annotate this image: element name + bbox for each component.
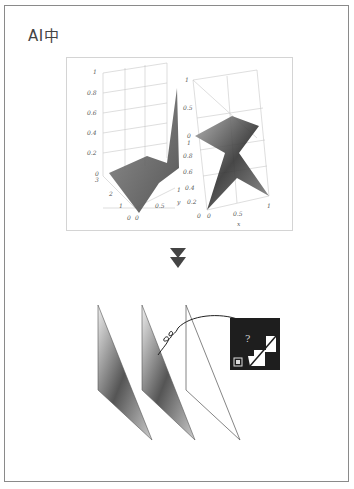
svg-text:0.8: 0.8 xyxy=(87,89,97,96)
svg-text:y: y xyxy=(176,198,181,206)
svg-text:1: 1 xyxy=(185,76,189,83)
texture-map-inset: ? xyxy=(230,318,280,370)
svg-text:0.6: 0.6 xyxy=(87,109,97,116)
plot-panel: 1 0.8 0.6 0.4 0.2 0 3 2 1 0 0 0.5 1 1 0.… xyxy=(66,57,293,231)
svg-text:0.4: 0.4 xyxy=(87,129,97,136)
svg-text:0.8: 0.8 xyxy=(183,152,193,159)
svg-text:0: 0 xyxy=(135,214,139,221)
svg-text:0.5: 0.5 xyxy=(233,210,243,217)
svg-text:0.6: 0.6 xyxy=(183,168,193,175)
svg-text:1: 1 xyxy=(187,139,191,146)
svg-text:2: 2 xyxy=(108,190,113,197)
textured-triangle-2 xyxy=(142,305,195,440)
svg-text:0: 0 xyxy=(197,212,201,219)
svg-text:0: 0 xyxy=(207,212,211,219)
svg-text:0: 0 xyxy=(187,132,191,139)
svg-text:?: ? xyxy=(245,333,250,344)
svg-text:1: 1 xyxy=(93,68,97,75)
svg-text:0.4: 0.4 xyxy=(185,184,195,191)
svg-text:0.2: 0.2 xyxy=(87,149,97,156)
svg-text:0.5: 0.5 xyxy=(155,202,165,209)
svg-text:0: 0 xyxy=(127,214,131,221)
connector-curve xyxy=(158,316,240,355)
svg-text:0.2: 0.2 xyxy=(187,198,197,205)
svg-text:1: 1 xyxy=(177,186,181,193)
svg-text:1: 1 xyxy=(119,202,123,209)
figure-title: AI中 xyxy=(28,24,59,45)
rendering-pipeline: ? xyxy=(90,300,280,474)
svg-text:3: 3 xyxy=(95,176,99,183)
svg-text:1: 1 xyxy=(267,202,271,209)
svg-text:0.5: 0.5 xyxy=(183,104,193,111)
svg-text:x: x xyxy=(237,220,241,227)
double-down-arrow-icon xyxy=(170,248,186,274)
